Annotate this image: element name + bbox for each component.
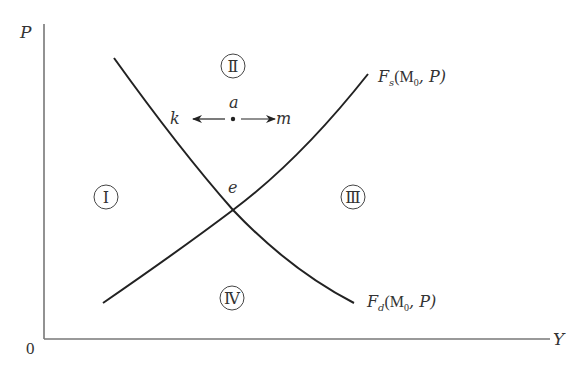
origin-label: 0 [26, 339, 35, 358]
region-3: Ⅲ [341, 185, 365, 209]
x-axis-label: Y [553, 329, 566, 349]
point-a-label: a [229, 93, 239, 112]
point-m-label: m [276, 109, 291, 128]
supply-curve-label: Fs(M0, P) [377, 67, 446, 88]
equilibrium-label: e [228, 178, 237, 197]
region-1: Ⅰ [94, 185, 118, 209]
svg-text:Ⅱ: Ⅱ [228, 58, 239, 75]
svg-text:Ⅳ: Ⅳ [224, 290, 241, 307]
point-a [231, 117, 235, 121]
diagram: P Y 0 e a k m Ⅰ Ⅱ Ⅲ Ⅳ Fs(M0, P) Fd(M0, P… [0, 0, 583, 377]
svg-text:Ⅲ: Ⅲ [345, 189, 360, 206]
demand-curve-label: Fd(M0, P) [366, 292, 436, 313]
svg-text:Ⅰ: Ⅰ [103, 189, 109, 206]
region-4: Ⅳ [220, 286, 244, 310]
region-2: Ⅱ [221, 54, 245, 78]
point-k-label: k [170, 109, 180, 128]
y-axis-label: P [19, 22, 32, 42]
